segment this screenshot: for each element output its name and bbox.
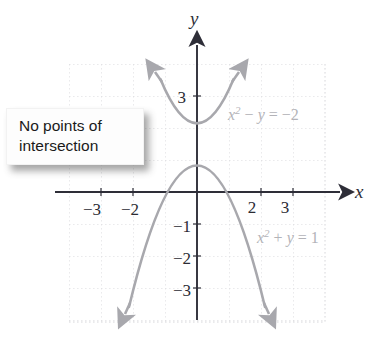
y-tick-label-neg1: −1 xyxy=(173,217,191,236)
x-tick-label-neg3: −3 xyxy=(83,200,101,219)
lower-eq-equals: = xyxy=(294,229,311,246)
x-tick-label-neg2: −2 xyxy=(121,200,139,219)
upper-eq-value: −2 xyxy=(282,106,299,123)
coordinate-plane-svg: y x −3 −2 2 3 3 −1 −2 −3 x2 − y = −2 x2 … xyxy=(0,0,372,337)
lower-eq-operator: + xyxy=(270,229,287,246)
y-tick-label-neg2: −2 xyxy=(173,249,191,268)
y-axis-label: y xyxy=(188,8,199,29)
lower-eq-base: x xyxy=(256,229,264,246)
y-tick-label-neg3: −3 xyxy=(173,281,191,300)
callout-no-intersection: No points of intersection xyxy=(6,108,144,165)
upper-eq-base: x xyxy=(227,106,235,123)
graph-figure: y x −3 −2 2 3 3 −1 −2 −3 x2 − y = −2 x2 … xyxy=(0,0,372,337)
x-axis-label: x xyxy=(354,181,364,202)
lower-eq-value: 1 xyxy=(311,229,319,246)
callout-line-1: No points of xyxy=(19,116,133,136)
x-tick-label-pos2: 2 xyxy=(248,198,257,217)
y-tick-label-pos3: 3 xyxy=(178,88,187,107)
x-tick-label-pos3: 3 xyxy=(281,198,290,217)
upper-eq-operator: − xyxy=(241,106,258,123)
callout-line-2: intersection xyxy=(19,136,133,156)
upper-eq-equals: = xyxy=(265,106,282,123)
